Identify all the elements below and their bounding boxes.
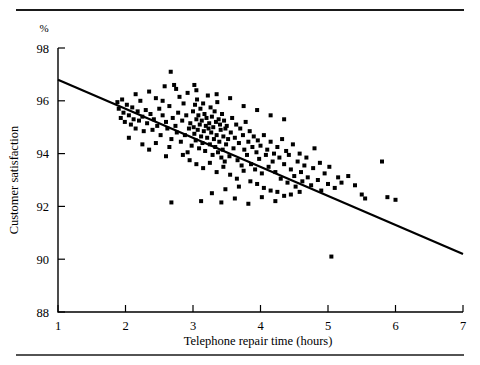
scatter-point xyxy=(201,101,205,105)
scatter-point xyxy=(129,123,133,127)
scatter-point xyxy=(157,107,161,111)
scatter-point xyxy=(253,167,257,171)
scatter-point xyxy=(199,199,203,203)
scatter-point xyxy=(215,92,219,96)
y-axis-tick-labels: 889092949698 xyxy=(37,42,50,320)
scatter-point xyxy=(242,148,246,152)
scatter-point xyxy=(159,133,163,137)
scatter-point xyxy=(291,142,295,146)
scatter-point xyxy=(353,183,357,187)
scatter-point xyxy=(193,103,197,107)
scatter-point xyxy=(202,112,206,116)
scatter-point xyxy=(180,119,184,123)
scatter-point xyxy=(298,152,302,156)
scatter-point xyxy=(210,115,214,119)
percent-unit-label: % xyxy=(39,22,48,34)
scatter-point xyxy=(179,140,183,144)
scatter-point xyxy=(300,179,304,183)
y-axis-ticks xyxy=(58,48,65,312)
scatter-point xyxy=(194,162,198,166)
scatter-point xyxy=(327,165,331,169)
scatter-point xyxy=(221,165,225,169)
scatter-point xyxy=(245,153,249,157)
scatter-point xyxy=(178,95,182,99)
x-tick-label: 1 xyxy=(55,319,61,333)
scatter-point xyxy=(313,146,317,150)
scatter-point xyxy=(262,133,266,137)
scatter-point xyxy=(148,112,152,116)
y-tick-label: 98 xyxy=(37,42,50,56)
scatter-point xyxy=(201,166,205,170)
scatter-point xyxy=(230,116,234,120)
scatter-point xyxy=(240,163,244,167)
scatter-point xyxy=(219,156,223,160)
scatter-point xyxy=(346,174,350,178)
x-tick-label: 4 xyxy=(257,319,264,333)
y-tick-label: 94 xyxy=(37,147,50,161)
scatter-point xyxy=(174,87,178,91)
scatter-point xyxy=(163,84,167,88)
scatter-point xyxy=(130,105,134,109)
scatter-point xyxy=(215,100,219,104)
scatter-point xyxy=(209,130,213,134)
scatter-point xyxy=(326,182,330,186)
scatter-point xyxy=(223,160,227,164)
scatter-point xyxy=(192,125,196,129)
x-tick-label: 7 xyxy=(460,319,466,333)
scatter-point xyxy=(145,121,149,125)
scatter-point xyxy=(235,177,239,181)
scatter-point xyxy=(192,132,196,136)
scatter-point xyxy=(296,160,300,164)
scatter-point xyxy=(219,200,223,204)
scatter-point xyxy=(127,136,131,140)
scatter-point xyxy=(202,129,206,133)
scatter-point xyxy=(228,173,232,177)
scatter-point xyxy=(167,145,171,149)
scatter-point xyxy=(188,158,192,162)
scatter-point xyxy=(306,175,310,179)
x-tick-label: 3 xyxy=(190,319,196,333)
scatter-point xyxy=(206,94,210,98)
scatter-point xyxy=(138,99,142,103)
scatter-point xyxy=(221,134,225,138)
scatter-point xyxy=(154,96,158,100)
scatter-point xyxy=(254,150,258,154)
scatter-point xyxy=(280,137,284,141)
scatter-point xyxy=(233,136,237,140)
scatter-point xyxy=(132,117,136,121)
scatter-point xyxy=(186,150,190,154)
scatter-point xyxy=(147,148,151,152)
scatter-point xyxy=(171,116,175,120)
figure-container: 889092949698 1234567 % Customer satisfac… xyxy=(0,0,480,365)
scatter-point xyxy=(262,186,266,190)
scatter-point xyxy=(119,116,123,120)
scatter-point xyxy=(200,119,204,123)
scatter-point xyxy=(172,83,176,87)
x-axis-ticks xyxy=(58,305,463,312)
scatter-point xyxy=(154,141,158,145)
scatter-point xyxy=(272,152,276,156)
scatter-point xyxy=(207,121,211,125)
scatter-point xyxy=(205,116,209,120)
scatter-point xyxy=(380,160,384,164)
scatter-point xyxy=(257,157,261,161)
scatter-point xyxy=(181,153,185,157)
scatter-point xyxy=(155,124,159,128)
scatter-point xyxy=(394,198,398,202)
x-axis-tick-labels: 1234567 xyxy=(55,319,466,333)
scatter-point xyxy=(217,140,221,144)
scatter-point xyxy=(248,179,252,183)
scatter-point xyxy=(125,103,129,107)
scatter-point xyxy=(199,134,203,138)
scatter-point xyxy=(212,137,216,141)
x-tick-label: 6 xyxy=(392,319,398,333)
scatter-point xyxy=(241,133,245,137)
x-axis-title: Telephone repair time (hours) xyxy=(184,334,333,348)
scatter-point xyxy=(298,190,302,194)
scatter-point xyxy=(188,121,192,125)
scatter-point xyxy=(269,113,273,117)
scatter-point xyxy=(196,113,200,117)
scatter-point xyxy=(232,146,236,150)
scatter-point xyxy=(260,171,264,175)
scatter-point xyxy=(273,199,277,203)
